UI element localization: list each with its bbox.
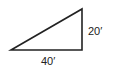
right-triangle [11,9,82,50]
triangle-diagram: 20′ 40′ [0,0,113,75]
horizontal-side-label: 40′ [41,55,55,67]
vertical-side-label: 20′ [88,25,102,37]
